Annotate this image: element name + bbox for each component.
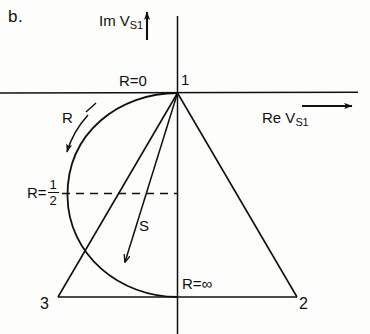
r-label-leader xyxy=(86,103,96,112)
imaginary-axis-label-var: V xyxy=(120,12,130,29)
fraction-denominator: 2 xyxy=(49,193,56,207)
imaginary-axis-label: Im VS1 xyxy=(99,13,143,28)
fraction-one-half: 1 2 xyxy=(48,178,59,207)
circle-locus-arc xyxy=(67,93,177,297)
imaginary-axis-label-prefix: Im xyxy=(99,12,116,29)
vertex-label-1: 1 xyxy=(181,72,189,87)
real-axis-label-prefix: Re xyxy=(262,109,281,126)
panel-letter: b. xyxy=(8,8,23,25)
real-axis-label-subscript: S1 xyxy=(295,116,308,128)
fraction-numerator: 1 xyxy=(49,178,56,192)
annotation-r-half-prefix: R= xyxy=(27,185,47,200)
imaginary-axis-label-subscript: S1 xyxy=(130,19,143,31)
vertex-label-2: 2 xyxy=(299,296,308,312)
annotation-r-zero: R=0 xyxy=(119,73,147,88)
annotation-r-infinity: R=∞ xyxy=(182,276,212,291)
figure-panel-b: b. Im VS1 Re VS1 R=0 1 R R= 1 2 S R=∞ 3 … xyxy=(0,0,370,334)
real-axis-label-var: V xyxy=(285,109,295,126)
vertex-label-3: 3 xyxy=(40,296,49,312)
real-axis-line xyxy=(0,92,358,93)
annotation-s-parameter: S xyxy=(139,218,149,233)
real-axis-label-vector: VS1 xyxy=(285,110,308,125)
s-phasor-arrow xyxy=(125,93,178,262)
annotation-r-half: R= 1 2 xyxy=(27,178,59,207)
triangle-edge-1-3 xyxy=(58,93,178,297)
annotation-r-parameter: R xyxy=(62,110,73,125)
real-axis-label: Re VS1 xyxy=(262,110,308,125)
